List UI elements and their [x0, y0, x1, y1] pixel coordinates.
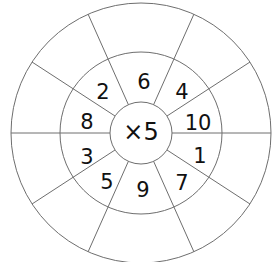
inner-number-top-left: 2	[96, 80, 109, 104]
inner-number-left-upper: 8	[80, 110, 93, 134]
inner-number-right-lower: 1	[193, 144, 206, 168]
center-multiplier-label: ×5	[123, 118, 158, 146]
inner-number-left-lower: 3	[80, 145, 93, 169]
inner-number-top-right: 4	[175, 80, 188, 104]
inner-number-top: 6	[137, 70, 150, 94]
inner-number-bottom-right: 7	[175, 171, 188, 195]
inner-number-bottom-left: 5	[100, 170, 113, 194]
inner-number-right-upper: 10	[185, 111, 212, 135]
inner-number-bottom: 9	[136, 178, 149, 202]
multiplication-wheel: ×5 6 4 10 1 7 9 5 3 8 2	[0, 0, 274, 262]
